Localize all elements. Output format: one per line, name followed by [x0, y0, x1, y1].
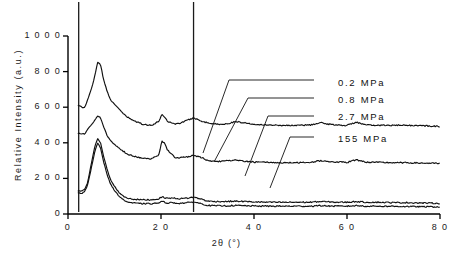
x-axis-title: 2θ (°) [0, 238, 453, 248]
y-tick-label: 0 [15, 208, 61, 218]
legend-label-2-7-mpa: 2.7 MPa [338, 111, 385, 122]
y-tick-label: 8 0 0 [15, 66, 61, 76]
legend-label-155-mpa: 155 MPa [338, 133, 388, 144]
leader-line-0-8-mpa [214, 98, 314, 162]
instrument-spikes [79, 2, 194, 212]
y-tick-label: 4 0 0 [15, 137, 61, 147]
y-tick-label: 1 0 0 0 [15, 30, 61, 40]
xrd-figure: Relative Intensity (a.u.) 2θ (°) 02 0 04… [0, 0, 453, 256]
plot-axes [63, 36, 440, 219]
y-tick-label: 2 0 0 [15, 172, 61, 182]
x-tick-label: 6 0 [327, 222, 367, 232]
x-tick-label: 0 [48, 222, 88, 232]
curve-155-mpa [78, 143, 439, 207]
legend-label-0-8-mpa: 0.8 MPa [338, 94, 385, 105]
x-tick-label: 8 0 [420, 222, 453, 232]
xrd-plot-canvas [0, 0, 453, 256]
y-tick-label: 6 0 0 [15, 101, 61, 111]
legend-label-0-2-mpa: 0.2 MPa [338, 77, 385, 88]
x-tick-label: 4 0 [234, 222, 274, 232]
y-axis-title: Relative Intensity (a.u.) [13, 35, 23, 195]
x-tick-label: 2 0 [141, 222, 181, 232]
curve-2-7-mpa [78, 139, 439, 204]
legend-leader-lines [203, 80, 314, 188]
leader-line-0-2-mpa [203, 80, 314, 153]
